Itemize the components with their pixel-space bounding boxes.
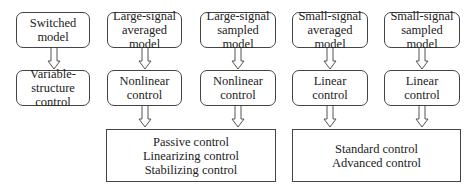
large-signal-averaged-model-box: Large-signal averaged model [107,12,182,48]
linear-control-label-1: Linear control [312,74,347,102]
small-signal-sampled-model-label: Small-signal sampled model [385,9,459,51]
arrow-down-icon [323,106,337,128]
nonlinear-methods-label: Passive control Linearizing control Stab… [143,135,239,177]
switched-model-box: Switched model [16,12,90,48]
nonlinear-control-box-1: Nonlinear control [107,70,182,106]
linear-control-box-2: Linear control [384,70,460,106]
arrow-down-icon [138,48,152,70]
large-signal-sampled-model-label: Large-signal sampled model [201,9,275,51]
arrow-down-icon [231,48,245,70]
small-signal-sampled-model-box: Small-signal sampled model [384,12,460,48]
variable-structure-control-box: Variable- structure control [16,70,90,106]
nonlinear-control-label-1: Nonlinear control [120,74,170,102]
linear-methods-label: Standard control Advanced control [332,142,421,170]
switched-model-label: Switched model [30,16,77,44]
arrow-down-icon [138,106,152,128]
arrow-down-icon [415,106,429,128]
nonlinear-control-box-2: Nonlinear control [200,70,276,106]
large-signal-averaged-model-label: Large-signal averaged model [108,9,181,51]
arrow-down-icon [323,48,337,70]
small-signal-averaged-model-box: Small-signal averaged model [292,12,368,48]
small-signal-averaged-model-label: Small-signal averaged model [293,9,367,51]
arrow-down-icon [231,106,245,128]
nonlinear-methods-box: Passive control Linearizing control Stab… [106,129,276,182]
large-signal-sampled-model-box: Large-signal sampled model [200,12,276,48]
nonlinear-control-label-2: Nonlinear control [213,74,263,102]
arrow-down-icon [415,48,429,70]
linear-control-box-1: Linear control [292,70,368,106]
linear-methods-box: Standard control Advanced control [292,129,461,182]
linear-control-label-2: Linear control [404,74,439,102]
variable-structure-control-label: Variable- structure control [17,67,89,109]
